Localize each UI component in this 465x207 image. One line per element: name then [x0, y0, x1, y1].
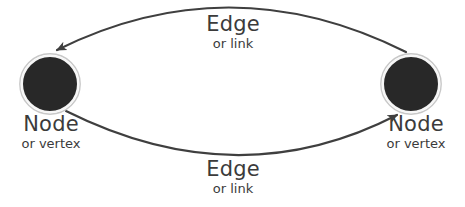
top-edge-label: Edge or link: [163, 13, 303, 51]
left-node-label-text: Node: [5, 113, 97, 136]
right-node-ring: [381, 54, 441, 114]
right-node-sublabel-text: or vertex: [370, 136, 462, 151]
right-node-label: Node or vertex: [370, 113, 462, 151]
graph-diagram: Edge or link Edge or link Node or vertex…: [0, 0, 465, 207]
top-edge-label-text: Edge: [163, 13, 303, 36]
left-node-circle: [22, 56, 78, 112]
bottom-edge-label-text: Edge: [163, 158, 303, 181]
left-node-ring: [20, 54, 80, 114]
bottom-edge-label: Edge or link: [163, 158, 303, 196]
bottom-edge-curve: [66, 111, 397, 155]
bottom-edge-sublabel-text: or link: [163, 181, 303, 196]
left-node-sublabel-text: or vertex: [5, 136, 97, 151]
right-node-circle: [383, 56, 439, 112]
top-edge-sublabel-text: or link: [163, 36, 303, 51]
right-node-label-text: Node: [370, 113, 462, 136]
left-node-label: Node or vertex: [5, 113, 97, 151]
